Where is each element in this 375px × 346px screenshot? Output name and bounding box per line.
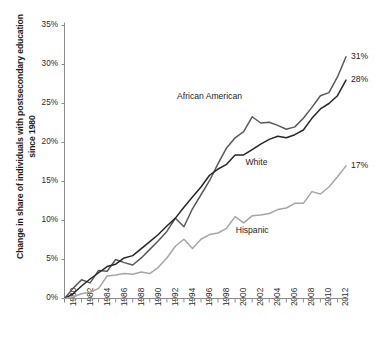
chart-axes bbox=[62, 23, 349, 303]
series-line-hispanic bbox=[65, 166, 347, 299]
series-line-white bbox=[65, 80, 347, 298]
chart-container: Change in share of individuals with post… bbox=[0, 0, 375, 346]
end-label-white: 28% bbox=[351, 74, 368, 84]
end-label-african-american: 31% bbox=[351, 51, 368, 61]
series-annotation-white: White bbox=[245, 157, 267, 167]
end-label-hispanic: 17% bbox=[351, 160, 368, 170]
chart-plot-area bbox=[0, 0, 375, 346]
series-annotation-african-american: African American bbox=[177, 91, 242, 101]
series-annotation-hispanic: Hispanic bbox=[236, 225, 269, 235]
